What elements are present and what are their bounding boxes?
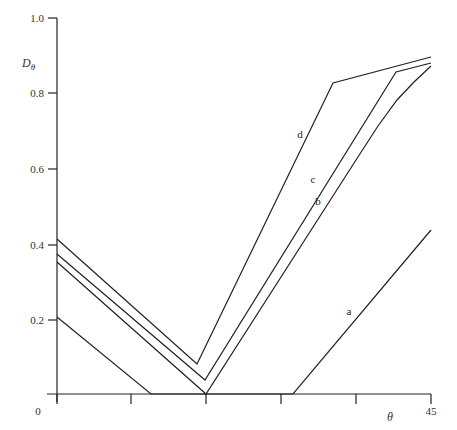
x-ticks [57,394,431,404]
x-axis-label: θ [387,410,393,424]
y-tick-1-0: 1.0 [30,12,44,24]
line-chart: 1.0 0.8 0.6 0.4 0.2 0 45 Dθ θ a b c d [0,0,457,430]
y-tick-0-4: 0.4 [30,239,44,251]
series-d-label: d [297,128,303,140]
x-tick-45: 45 [426,405,438,417]
series-c-line [57,63,431,380]
series-a-label: a [347,305,352,317]
x-tick-0: 0 [35,405,41,417]
series-b-label: b [315,195,321,207]
y-tick-0-8: 0.8 [30,87,44,99]
y-axis-label: Dθ [21,56,36,72]
y-ticks [48,18,57,320]
series-b-line [57,66,431,394]
y-tick-0-6: 0.6 [30,163,44,175]
series-c-label: c [311,173,316,185]
y-tick-0-2: 0.2 [30,314,44,326]
